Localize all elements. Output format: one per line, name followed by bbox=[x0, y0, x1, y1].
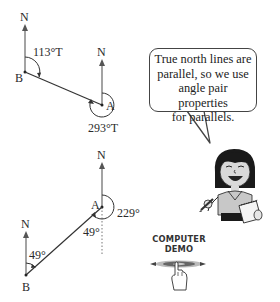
speech-bubble: True north lines are parallel, so we use… bbox=[149, 48, 257, 112]
bubble-line: True north lines are bbox=[153, 52, 253, 67]
angle-label-229: 229° bbox=[117, 206, 140, 220]
point-a-dot bbox=[101, 104, 104, 107]
bearing-label-113: 113°T bbox=[33, 45, 63, 59]
north-label-a: N bbox=[97, 148, 106, 162]
bearing-label-293: 293°T bbox=[88, 121, 119, 135]
point-label-b: B bbox=[15, 71, 23, 85]
north-label-b: N bbox=[20, 10, 29, 24]
bubble-line: for parallels. bbox=[153, 110, 253, 125]
bearings-diagram: N 113°T B N A 293°T N 229° bbox=[0, 0, 280, 302]
line-ba bbox=[26, 207, 102, 275]
angle-label-49-alternate: 49° bbox=[83, 225, 100, 239]
north-arrow-icon bbox=[22, 24, 28, 31]
hand-pointer-disc-icon[interactable] bbox=[150, 261, 206, 291]
north-arrow-icon bbox=[23, 231, 29, 238]
point-label-b: B bbox=[22, 280, 30, 294]
bottom-diagram: N 229° A 49° N 49° B bbox=[21, 148, 140, 294]
demo-label-line1: COMPUTER bbox=[148, 234, 210, 244]
angle-label-49-b: 49° bbox=[29, 248, 46, 262]
bubble-line: angle pair properties bbox=[153, 81, 253, 110]
point-label-a: A bbox=[106, 99, 115, 113]
north-label-b: N bbox=[21, 217, 30, 231]
point-b-dot bbox=[25, 274, 28, 277]
computer-demo-label[interactable]: COMPUTER DEMO bbox=[148, 234, 210, 254]
bubble-line: parallel, so we use bbox=[153, 67, 253, 82]
top-diagram: N 113°T B N A 293°T bbox=[15, 10, 119, 135]
north-arrow-icon bbox=[99, 59, 105, 66]
north-label-a: N bbox=[97, 45, 106, 59]
demo-label-line2: DEMO bbox=[148, 244, 210, 254]
girl-with-notepad-icon bbox=[199, 149, 262, 223]
north-arrow-icon bbox=[99, 162, 105, 169]
